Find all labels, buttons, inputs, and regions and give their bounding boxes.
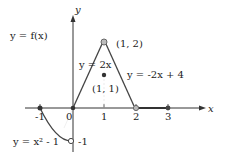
function-graph: y x y = f(x) y = 2x y = -2x + 4 y = x² -… (0, 0, 227, 157)
closed-point-neg1-0 (38, 106, 43, 111)
x-tick-label: 0 (66, 111, 72, 122)
open-point-1-2 (101, 39, 107, 45)
closed-point-1-1 (102, 73, 106, 77)
open-point-2-0 (133, 105, 138, 110)
x-tick-label: 1 (101, 111, 107, 122)
falling-line-label: y = -2x + 4 (126, 69, 184, 80)
isolated-point-label: (1, 1) (92, 83, 119, 94)
x-tick-label: 3 (165, 111, 171, 122)
rising-line-label: y = 2x (78, 59, 112, 70)
x-tick-label: -1 (35, 111, 45, 122)
open-point-0-neg1 (68, 138, 73, 143)
y-tick-label: -1 (78, 136, 88, 147)
peak-point-label: (1, 2) (116, 38, 143, 49)
y-axis-label: y (74, 4, 81, 15)
closed-point-0-0 (71, 106, 76, 111)
y-axis-arrow-icon (71, 15, 76, 22)
parabola-label: y = x² - 1 (12, 136, 59, 147)
x-axis-arrow-icon (199, 106, 206, 111)
x-tick-label: 2 (133, 111, 139, 122)
function-label: y = f(x) (9, 30, 48, 41)
rising-line-piece (73, 44, 102, 108)
x-axis-label: x (208, 103, 214, 114)
closed-point-3-0 (166, 106, 171, 111)
